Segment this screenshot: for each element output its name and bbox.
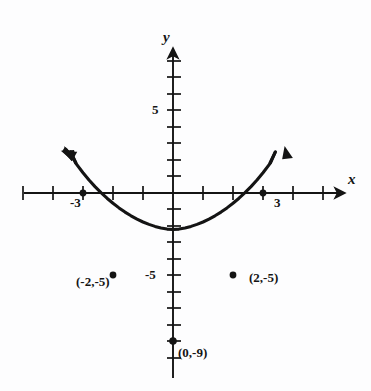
x-tick-label-3: 3 <box>274 196 281 209</box>
point-vertex <box>169 337 177 345</box>
x-tick-label-neg3: -3 <box>70 196 81 209</box>
graph-figure: y x 5 -5 -3 3 (-2,-5) (2,-5) (0,-9) <box>0 0 371 391</box>
y-axis-ticks <box>167 61 181 358</box>
point-x-intercept-right <box>260 190 267 197</box>
y-tick-label-neg5: -5 <box>145 268 156 281</box>
x-axis-label: x <box>348 172 356 187</box>
y-axis-label: y <box>163 30 170 45</box>
annotation-point-2-neg5: (2,-5) <box>249 271 278 284</box>
y-tick-label-5: 5 <box>152 103 159 116</box>
parabola-curve <box>67 134 108 195</box>
curve-right-arrowhead <box>279 146 296 163</box>
point-neg2-neg5 <box>110 272 117 279</box>
coordinate-plane-svg <box>0 0 371 391</box>
annotation-point-vertex: (0,-9) <box>178 346 207 359</box>
annotation-point-neg2-neg5: (-2,-5) <box>76 275 110 288</box>
point-2-neg5 <box>230 272 237 279</box>
